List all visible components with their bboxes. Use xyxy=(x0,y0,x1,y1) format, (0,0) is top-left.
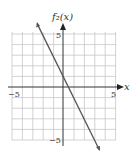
x-tick-neg5: −5 xyxy=(8,90,20,99)
grid xyxy=(12,32,116,140)
y-axis-arrow-icon xyxy=(60,23,66,30)
line-arrow-top-icon xyxy=(36,22,40,28)
y-tick-neg5: −5 xyxy=(49,136,61,145)
function-graph: f₂(x) x −5 5 5 −5 xyxy=(0,0,132,154)
y-tick-pos5: 5 xyxy=(56,31,61,40)
line-arrow-bottom-icon xyxy=(96,146,100,151)
x-axis-arrow-icon xyxy=(117,84,124,90)
x-tick-pos5: 5 xyxy=(111,90,116,99)
x-axis-label: x xyxy=(124,81,130,92)
y-axis-label: f₂(x) xyxy=(51,11,73,22)
